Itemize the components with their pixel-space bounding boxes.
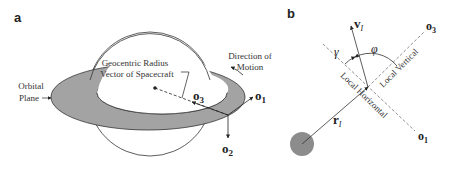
gamma-arc: [345, 57, 355, 64]
phi-label: φ: [371, 42, 378, 56]
panel-a-label: a: [14, 10, 22, 25]
radius-label: Geocentric Radius: [102, 58, 169, 68]
o3-label-b: o3: [426, 19, 436, 35]
local-vertical-label: Local Vertical: [377, 46, 420, 89]
v-label: vI: [354, 16, 364, 33]
o1-label-b: o1: [418, 129, 428, 145]
orbital-plane-label: Orbital: [18, 81, 44, 91]
o2-label: o2: [222, 141, 234, 158]
panel-a: a Orbital Plane Geocentric Radius Vector…: [14, 10, 272, 158]
gamma-label: γ: [334, 45, 339, 59]
figure: a Orbital Plane Geocentric Radius Vector…: [0, 0, 460, 170]
svg-text:Vector of Spacecraft: Vector of Spacecraft: [100, 69, 174, 79]
local-vertical-line: [368, 32, 424, 87]
motion-label: Direction of: [228, 51, 272, 61]
panel-b-label: b: [287, 6, 295, 21]
o1-label: o1: [255, 88, 267, 105]
svg-text:Plane: Plane: [19, 93, 39, 103]
panel-b: b vI γ φ Local Vertical Local Horizontal…: [287, 6, 436, 156]
r-label: rI: [333, 112, 342, 129]
svg-text:Motion: Motion: [237, 62, 264, 72]
